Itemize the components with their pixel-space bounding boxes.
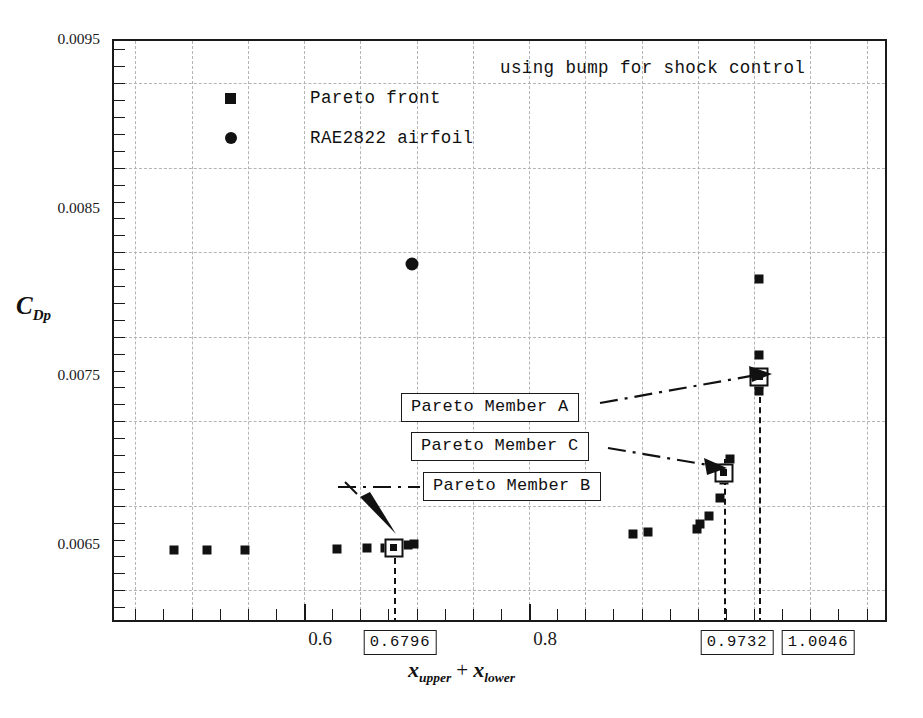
- y-axis-minor-tick: [114, 506, 125, 507]
- x-axis-title-sub1: upper: [419, 670, 451, 685]
- gridline-vertical: [585, 41, 586, 620]
- x-value-box-09732: 0.9732: [701, 630, 774, 655]
- y-axis-title-main: C: [16, 292, 33, 319]
- data-point-pareto: [716, 494, 725, 503]
- data-point-pareto: [696, 520, 705, 529]
- y-axis-minor-tick: [114, 489, 125, 490]
- legend-label-pareto-front: Pareto front: [310, 88, 441, 108]
- gridline-vertical: [867, 41, 868, 620]
- gridline-vertical: [810, 41, 811, 620]
- x-tick-label-08: 0.8: [510, 628, 580, 650]
- x-axis-minor-tick: [501, 609, 502, 620]
- x-axis-minor-tick: [248, 609, 249, 620]
- chart-title: using bump for shock control: [500, 58, 805, 78]
- x-axis-minor-tick: [782, 609, 783, 620]
- y-axis-minor-tick: [114, 573, 125, 574]
- annotation-pareto-member-a: Pareto Member A: [401, 393, 579, 422]
- x-tick-label-06: 0.6: [285, 628, 355, 650]
- x-axis-minor-tick: [726, 609, 727, 620]
- highlighted-marker-pareto-member-a: [750, 367, 769, 386]
- x-axis-minor-tick: [332, 609, 333, 620]
- y-tick-label-0075: 0.0075: [8, 366, 100, 384]
- x-axis-minor-tick: [642, 609, 643, 620]
- x-axis-minor-tick: [613, 609, 614, 620]
- data-point-pareto: [333, 545, 342, 554]
- y-axis-minor-tick: [114, 202, 125, 203]
- y-axis-minor-tick: [114, 387, 125, 388]
- y-axis-minor-tick: [114, 83, 125, 84]
- gridline-horizontal: [114, 590, 885, 591]
- x-axis-minor-tick: [360, 609, 361, 620]
- data-point-pareto: [705, 511, 714, 520]
- x-axis-major-tick: [304, 604, 306, 620]
- legend-item-pareto-front: Pareto front: [225, 88, 441, 108]
- x-axis-minor-tick: [388, 609, 389, 620]
- legend-item-rae2822: RAE2822 airfoil: [225, 128, 474, 148]
- y-axis-minor-tick: [114, 49, 125, 50]
- y-tick-label-0095: 0.0095: [8, 30, 100, 48]
- y-axis-minor-tick: [114, 66, 125, 67]
- x-axis-minor-tick: [163, 609, 164, 620]
- annotation-pareto-member-b: Pareto Member B: [423, 472, 601, 501]
- y-axis-minor-tick: [114, 151, 125, 152]
- y-axis-minor-tick: [114, 168, 125, 169]
- y-tick-label-0065: 0.0065: [8, 535, 100, 553]
- highlighted-marker-pareto-member-c: [714, 463, 733, 482]
- x-axis-title-plus: +: [451, 658, 473, 682]
- y-axis-minor-tick: [114, 252, 125, 253]
- x-axis-minor-tick: [473, 609, 474, 620]
- highlighted-marker-pareto-member-b: [384, 538, 403, 557]
- y-axis-minor-tick: [114, 438, 125, 439]
- y-axis-minor-tick: [114, 455, 125, 456]
- y-axis-minor-tick: [114, 421, 125, 422]
- data-point-pareto: [409, 540, 418, 549]
- y-tick-label-0085: 0.0085: [8, 199, 100, 217]
- data-point-pareto: [629, 530, 638, 539]
- x-axis-minor-tick: [417, 609, 418, 620]
- x-axis-minor-tick: [135, 609, 136, 620]
- gridline-vertical: [754, 41, 755, 620]
- x-value-box-06796: 0.6796: [364, 630, 437, 655]
- x-axis-minor-tick: [670, 609, 671, 620]
- x-axis-minor-tick: [276, 609, 277, 620]
- x-axis-minor-tick: [445, 609, 446, 620]
- y-axis-minor-tick: [114, 556, 125, 557]
- y-axis-minor-tick: [114, 354, 125, 355]
- x-value-box-10046: 1.0046: [782, 630, 855, 655]
- data-point-rae2822: [406, 258, 419, 271]
- x-axis-major-tick: [529, 604, 531, 620]
- data-point-pareto: [241, 546, 250, 555]
- gridline-vertical: [642, 41, 643, 620]
- data-point-pareto: [644, 527, 653, 536]
- data-point-pareto: [203, 546, 212, 555]
- drop-line-06796: [394, 548, 396, 620]
- y-axis-minor-tick: [114, 117, 125, 118]
- y-axis-minor-tick: [114, 303, 125, 304]
- y-axis-minor-tick: [114, 218, 125, 219]
- y-axis-minor-tick: [114, 523, 125, 524]
- y-axis-minor-tick: [114, 404, 125, 405]
- x-axis-minor-tick: [838, 609, 839, 620]
- x-axis-minor-tick: [698, 609, 699, 620]
- y-axis-minor-tick: [114, 286, 125, 287]
- gridline-vertical: [529, 41, 530, 620]
- y-axis-minor-tick: [114, 590, 125, 591]
- y-axis-minor-tick: [114, 185, 125, 186]
- drop-line-10046: [759, 377, 761, 620]
- x-axis-title-sub2: lower: [484, 670, 515, 685]
- legend-label-rae2822: RAE2822 airfoil: [310, 128, 474, 148]
- gridline-horizontal: [114, 83, 885, 84]
- gridline-horizontal: [114, 168, 885, 169]
- x-axis-title-part2: x: [473, 657, 484, 682]
- y-axis-minor-tick: [114, 337, 125, 338]
- y-axis-minor-tick: [114, 371, 125, 372]
- x-axis-minor-tick: [754, 609, 755, 620]
- legend-circle-icon: [225, 132, 265, 144]
- gridline-vertical: [135, 41, 136, 620]
- y-axis-minor-tick: [114, 100, 125, 101]
- gridline-horizontal: [114, 506, 885, 507]
- data-point-pareto: [755, 275, 764, 284]
- x-axis-minor-tick: [192, 609, 193, 620]
- gridline-vertical: [192, 41, 193, 620]
- y-axis-minor-tick: [114, 235, 125, 236]
